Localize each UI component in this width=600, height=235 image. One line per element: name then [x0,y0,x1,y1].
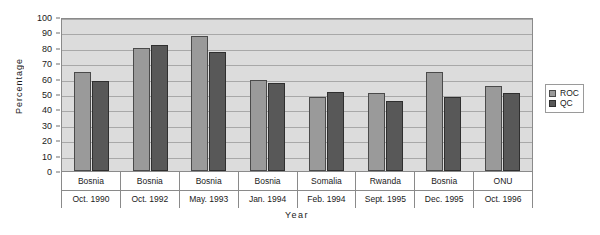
x-axis-category-cell: SomaliaFeb. 1994 [298,172,357,208]
x-axis-category-cell: BosniaDec. 1995 [415,172,474,208]
y-axis-title: Percentage [14,58,28,114]
y-axis-tick-mark [56,33,60,34]
x-axis-category-date: Jan. 1994 [239,190,297,209]
bar-qc [151,45,168,171]
x-axis-category-place: Bosnia [415,172,473,190]
x-axis-category-cell: BosniaJan. 1994 [239,172,298,208]
x-axis-category-place: Somalia [298,172,356,190]
y-axis-tick-mark [56,64,60,65]
y-axis-tick-label: 60 [42,75,52,84]
y-axis-tick-label: 100 [37,14,52,23]
x-axis-category-table: BosniaOct. 1990BosniaOct. 1992BosniaMay.… [61,172,533,208]
x-axis-category-date: May. 1993 [180,190,238,209]
bar-roc [133,48,150,171]
y-axis-tick-mark [56,156,60,157]
x-axis-category-date: Feb. 1994 [298,190,356,209]
y-axis-tick-mark [56,141,60,142]
bar-qc [92,81,109,171]
bar-qc [268,83,285,171]
x-axis-category-cell: RwandaSept. 1995 [356,172,415,208]
legend-label: QC [560,99,573,108]
bar-group [356,19,415,171]
y-axis-tick-labels: 1009080706050403020100 [30,18,56,172]
legend-swatch-icon [549,90,556,97]
bar-roc [74,72,91,171]
x-axis-category-cell: BosniaOct. 1992 [121,172,180,208]
x-axis-category-place: Bosnia [239,172,297,190]
legend: ROCQC [545,84,584,113]
x-axis-category-date: Oct. 1996 [474,190,532,209]
x-axis-category-place: Rwanda [356,172,414,190]
bar-roc [426,72,443,171]
bar-group [62,19,121,171]
y-axis-tick-label: 70 [42,60,52,69]
x-axis-category-place: ONU [474,172,532,190]
bar-roc [485,86,502,171]
bar-chart-figure: Percentage 1009080706050403020100 Bosnia… [0,0,600,235]
y-axis-tick-label: 20 [42,137,52,146]
y-axis-tick-mark [56,48,60,49]
bar-group [180,19,239,171]
y-axis-tick-mark [56,125,60,126]
y-axis-tick-mark [56,79,60,80]
y-axis-tick-label: 0 [47,168,52,177]
x-axis-category-place: Bosnia [121,172,179,190]
y-axis-tick-label: 50 [42,91,52,100]
bar-qc [327,92,344,171]
x-axis-category-date: Sept. 1995 [356,190,414,209]
y-axis-tick-label: 90 [42,29,52,38]
y-axis-tick-label: 40 [42,106,52,115]
y-axis-tick-mark [56,18,60,19]
bar-qc [209,52,226,171]
y-axis-tick-label: 30 [42,121,52,130]
y-axis-tick-label: 80 [42,44,52,53]
x-axis-category-cell: BosniaMay. 1993 [180,172,239,208]
y-axis-tick-label: 10 [42,152,52,161]
legend-label: ROC [560,89,579,98]
x-axis-title: Year [61,210,533,220]
bar-groups [62,19,532,171]
plot-area [61,18,533,172]
legend-swatch-icon [549,100,556,107]
bar-group [297,19,356,171]
bar-roc [250,80,267,171]
x-axis-category-cell: ONUOct. 1996 [474,172,533,208]
y-axis-tick-mark [56,110,60,111]
x-axis-category-date: Oct. 1990 [62,190,120,209]
x-axis-category-date: Dec. 1995 [415,190,473,209]
bar-group [473,19,532,171]
x-axis-category-cell: BosniaOct. 1990 [62,172,121,208]
bar-roc [368,93,385,171]
bar-roc [191,36,208,171]
y-axis-tick-mark [56,95,60,96]
y-axis-tick-mark [56,172,60,173]
bar-group [415,19,474,171]
x-axis-category-place: Bosnia [62,172,120,190]
bar-qc [444,97,461,171]
bar-roc [309,97,326,171]
x-axis-category-date: Oct. 1992 [121,190,179,209]
legend-item-qc[interactable]: QC [549,99,579,108]
legend-item-roc[interactable]: ROC [549,89,579,98]
x-axis-category-place: Bosnia [180,172,238,190]
bar-qc [503,93,520,171]
bar-qc [386,101,403,171]
bar-group [121,19,180,171]
bar-group [238,19,297,171]
